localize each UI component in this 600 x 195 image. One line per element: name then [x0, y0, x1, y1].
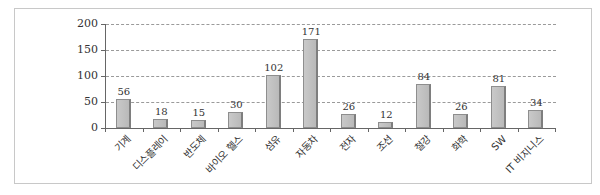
x-tick — [105, 128, 106, 132]
x-tick — [218, 128, 219, 132]
y-tick-label: 0 — [58, 122, 98, 133]
value-label: 84 — [407, 72, 441, 82]
x-tick — [368, 128, 369, 132]
y-tick — [101, 76, 105, 77]
y-tick-label: 150 — [58, 44, 98, 55]
value-label: 26 — [444, 102, 478, 112]
bar-10 — [491, 86, 506, 128]
value-label: 30 — [219, 100, 253, 110]
x-tick — [443, 128, 444, 132]
y-tick — [101, 24, 105, 25]
y-tick — [101, 102, 105, 103]
x-tick — [255, 128, 256, 132]
x-tick — [555, 128, 556, 132]
bar-1 — [153, 119, 168, 128]
gridline — [106, 24, 556, 25]
x-tick — [480, 128, 481, 132]
gridline — [106, 50, 556, 51]
x-tick — [293, 128, 294, 132]
value-label: 81 — [482, 74, 516, 84]
x-tick — [180, 128, 181, 132]
bar-4 — [266, 75, 281, 128]
value-label: 171 — [294, 27, 328, 37]
bar-5 — [303, 39, 318, 128]
bar-8 — [416, 84, 431, 128]
bar-0 — [116, 99, 131, 128]
y-tick-label: 100 — [58, 70, 98, 81]
x-tick — [330, 128, 331, 132]
bar-9 — [453, 114, 468, 128]
y-tick-label: 50 — [58, 96, 98, 107]
value-label: 12 — [369, 110, 403, 120]
x-tick — [518, 128, 519, 132]
x-tick — [143, 128, 144, 132]
x-tick — [405, 128, 406, 132]
value-label: 102 — [257, 63, 291, 73]
bar-7 — [378, 122, 393, 128]
bar-11 — [528, 110, 543, 128]
value-label: 18 — [144, 107, 178, 117]
bar-6 — [341, 114, 356, 128]
value-label: 56 — [107, 87, 141, 97]
y-tick — [101, 50, 105, 51]
value-label: 26 — [332, 102, 366, 112]
y-tick-label: 200 — [58, 18, 98, 29]
bar-3 — [228, 112, 243, 128]
value-label: 34 — [519, 98, 553, 108]
value-label: 15 — [182, 108, 216, 118]
bar-2 — [191, 120, 206, 128]
